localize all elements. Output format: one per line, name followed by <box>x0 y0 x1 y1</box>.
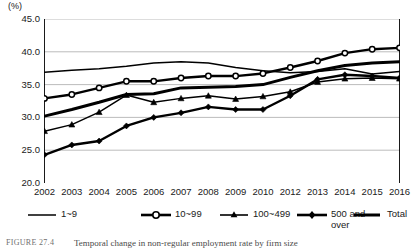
legend-label: Total <box>386 208 407 219</box>
data-point-circle <box>315 58 320 63</box>
legend-item-100-499[interactable]: 100~499 <box>218 208 290 222</box>
x-tick-label: 2005 <box>116 186 137 198</box>
figure-caption: FIGURE 27.4 Temporal change in non-regul… <box>0 238 415 249</box>
chart-legend: 1~910~99100~499500 and overTotal <box>0 208 415 234</box>
data-point-circle <box>69 92 74 97</box>
y-tick-label: 25.0 <box>6 145 40 155</box>
data-point-diamond <box>342 72 348 78</box>
data-point-circle <box>342 50 347 55</box>
data-point-circle <box>178 75 183 80</box>
x-tick-label: 2014 <box>334 186 355 198</box>
data-point-diamond <box>233 107 239 113</box>
y-tick-label: 45.0 <box>6 14 40 24</box>
caption-text: Temporal change in non-regular employmen… <box>74 238 298 248</box>
legend-label: 1~9 <box>60 208 77 219</box>
data-point-circle <box>233 73 238 78</box>
x-tick-label: 2015 <box>362 186 383 198</box>
data-point-circle <box>44 96 47 101</box>
legend-marker-diamond-icon <box>296 208 330 222</box>
x-tick-label: 2013 <box>307 186 328 198</box>
x-tick-label: 2008 <box>198 186 219 198</box>
y-tick-label: 40.0 <box>6 47 40 57</box>
legend-marker-circle-icon <box>140 208 174 222</box>
data-point-circle <box>151 79 156 84</box>
legend-marker-triangle-icon <box>218 208 252 222</box>
y-tick-label: 30.0 <box>6 112 40 122</box>
series-1-9 <box>45 62 400 74</box>
data-point-circle <box>288 65 293 70</box>
x-tick-label: 2004 <box>89 186 110 198</box>
data-point-circle <box>206 73 211 78</box>
x-tick-label: 2016 <box>389 186 410 198</box>
data-point-circle <box>397 45 400 50</box>
x-tick-label: 2009 <box>225 186 246 198</box>
x-tick-label: 2002 <box>34 186 55 198</box>
plot-svg <box>44 19 400 183</box>
data-point-circle <box>369 46 374 51</box>
legend-marker-none-icon <box>26 208 60 222</box>
legend-label: 10~99 <box>174 208 202 219</box>
data-point-diamond <box>69 142 75 148</box>
x-tick-label: 2006 <box>143 186 164 198</box>
x-axis-tick-labels: 2002200320042005200620072008200920102012… <box>0 186 415 200</box>
y-tick-label: 35.0 <box>6 80 40 90</box>
legend-item-10-99[interactable]: 10~99 <box>140 208 202 222</box>
x-tick-label: 2010 <box>252 186 273 198</box>
x-tick-label: 2012 <box>280 186 301 198</box>
caption-number: FIGURE 27.4 <box>6 238 54 247</box>
data-point-circle <box>260 71 265 76</box>
figure-chart: (%) 20.025.030.035.040.045.0 20022003200… <box>0 0 415 249</box>
legend-marker-none-icon <box>352 208 386 222</box>
x-tick-label: 2007 <box>170 186 191 198</box>
data-point-diamond <box>178 110 184 116</box>
series-line <box>45 62 400 74</box>
legend-label: 100~499 <box>252 208 290 219</box>
x-tick-label: 2003 <box>61 186 82 198</box>
legend-item-1-9[interactable]: 1~9 <box>26 208 77 222</box>
legend-item-total[interactable]: Total <box>352 208 407 222</box>
data-point-diamond <box>151 114 157 120</box>
plot-area <box>44 19 400 183</box>
data-point-circle <box>124 79 129 84</box>
data-point-diamond <box>205 104 211 110</box>
data-point-circle <box>96 85 101 90</box>
